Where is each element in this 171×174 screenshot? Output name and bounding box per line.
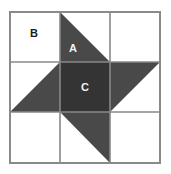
patch-label-blade: A [69,42,77,54]
quilt-block-diagram: B A C [0,0,171,174]
patch-label-corner: B [30,27,38,39]
patch-corner-top-right [110,12,160,62]
patch-corner-bottom-right [110,112,160,163]
patch-corner-bottom-left [10,112,60,163]
quilt-block-figure: B A C [0,0,171,174]
patch-label-center: C [81,81,89,93]
